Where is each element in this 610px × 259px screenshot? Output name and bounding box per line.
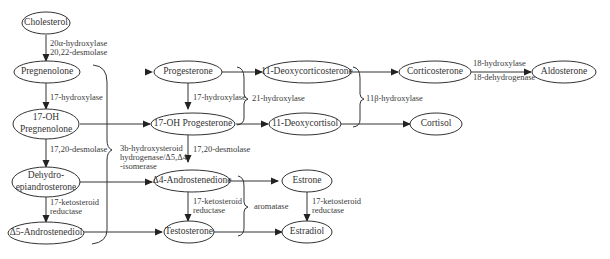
label-21-hydroxylase: 21-hydroxylase — [252, 93, 305, 103]
svg-text:Testosterone: Testosterone — [165, 226, 213, 236]
node-estrone: Estrone — [282, 170, 332, 192]
svg-text:Progesterone: Progesterone — [163, 66, 213, 76]
svg-text:17-OH Progesterone: 17-OH Progesterone — [154, 118, 232, 128]
label-20-22-desmolase: 20,22-desmolase — [50, 47, 108, 57]
node-estradiol: Estradiol — [282, 221, 332, 243]
label-reductase-right: reductase — [312, 205, 344, 215]
svg-text:Corticosterone: Corticosterone — [407, 66, 463, 76]
node-17oh-progesterone: 17-OH Progesterone — [151, 113, 235, 135]
node-aldosterone: Aldosterone — [532, 61, 596, 83]
svg-text:Δ4-Androstenedione: Δ4-Androstenedione — [153, 175, 232, 185]
pathway-diagram: Cholesterol Pregnenolone 17-OH Pregnenol… — [0, 0, 610, 259]
svg-text:epiandrosterone: epiandrosterone — [16, 182, 77, 192]
node-androstenediol: Δ5-Androstenediol — [8, 222, 84, 244]
label-17-hydroxylase-left: 17-hydroxylase — [50, 92, 103, 102]
svg-text:11-Deoxycortisol: 11-Deoxycortisol — [272, 118, 338, 128]
node-deoxycortisol: 11-Deoxycortisol — [269, 113, 341, 135]
svg-text:Estrone: Estrone — [292, 175, 321, 185]
svg-text:Cortisol: Cortisol — [421, 118, 452, 128]
label-3b-hsd-3: -isomerase — [120, 161, 157, 171]
node-pregnenolone: Pregnenolone — [14, 61, 80, 83]
label-reductase-mid: reductase — [193, 205, 225, 215]
label-17-20-desmolase-mid: 17,20-desmolase — [193, 144, 251, 154]
svg-text:Pregnenolone: Pregnenolone — [21, 66, 73, 76]
node-dhea: Dehydro- epiandrosterone — [12, 167, 80, 197]
svg-text:Dehydro-: Dehydro- — [28, 170, 64, 180]
label-17-hydroxylase-mid: 17-hydroxylase — [193, 92, 246, 102]
node-cholesterol: Cholesterol — [22, 12, 70, 34]
node-corticosterone: Corticosterone — [399, 61, 471, 83]
node-deoxycorticosterone: 11-Deoxycorticosterone — [261, 61, 352, 83]
node-progesterone: Progesterone — [154, 61, 222, 83]
node-17oh-pregnenolone: 17-OH Pregnenolone — [13, 109, 79, 139]
svg-text:Δ5-Androstenediol: Δ5-Androstenediol — [10, 227, 83, 237]
svg-text:Pregnenolone: Pregnenolone — [20, 124, 72, 134]
svg-text:Cholesterol: Cholesterol — [24, 17, 68, 27]
brace-11b-hydroxylase — [353, 67, 364, 127]
label-18-dehydrogenase: 18-dehydrogenase — [473, 72, 536, 82]
label-11b-hydroxylase: 11β-hydroxylase — [366, 93, 423, 103]
svg-text:Estradiol: Estradiol — [290, 226, 325, 236]
svg-text:11-Deoxycorticosterone: 11-Deoxycorticosterone — [261, 66, 352, 76]
label-reductase-left: reductase — [50, 206, 82, 216]
node-cortisol: Cortisol — [410, 113, 462, 135]
node-testosterone: Testosterone — [164, 221, 214, 243]
label-aromatase: aromatase — [254, 201, 289, 211]
svg-text:17-OH: 17-OH — [33, 112, 60, 122]
brace-aromatase — [238, 176, 248, 236]
label-18-hydroxylase: 18-hydroxylase — [473, 58, 526, 68]
svg-text:Aldosterone: Aldosterone — [541, 66, 587, 76]
node-androstenedione: Δ4-Androstenedione — [153, 170, 232, 192]
label-17-20-desmolase-left: 17,20-desmolase — [50, 144, 108, 154]
